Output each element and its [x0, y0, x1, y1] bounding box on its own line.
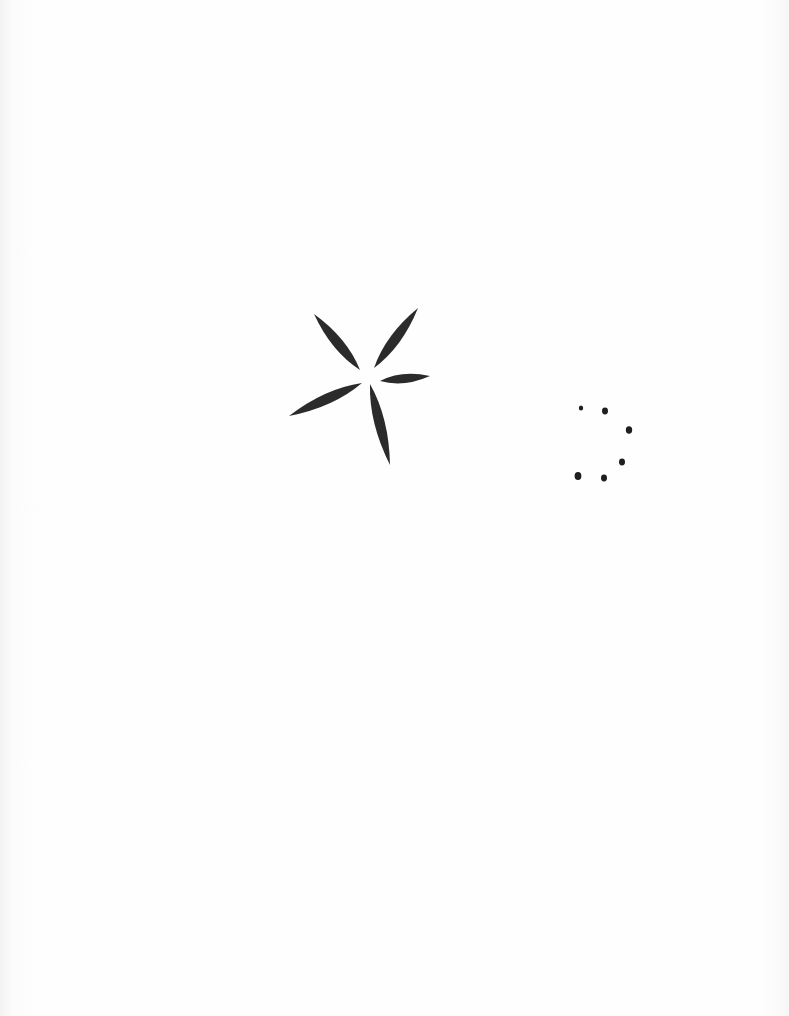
dot-mark [602, 408, 608, 415]
petal-shape [289, 383, 362, 416]
dot-mark [575, 472, 582, 480]
dot-mark [601, 475, 607, 482]
scanned-page [0, 0, 789, 1016]
dot-ring-drawing [575, 405, 633, 481]
petal-shape [380, 374, 430, 384]
dot-mark [579, 405, 583, 410]
petal-shape [374, 308, 418, 368]
petal-shape [314, 314, 360, 370]
petal-shape [370, 384, 390, 465]
dot-mark [626, 426, 632, 433]
star-drawing [289, 308, 430, 465]
drawing-canvas [0, 0, 789, 1016]
dot-mark [619, 459, 625, 466]
